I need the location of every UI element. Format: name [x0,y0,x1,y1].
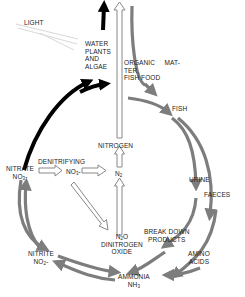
amino-acids-label: AMINO ACIDS [188,250,210,265]
water-plants-line: AND [85,55,111,63]
nitrite-formula: NO2- [28,258,54,266]
amino-acids-line: AMINO [188,250,210,258]
nitrate-label: NITRATE NO3- [6,165,34,180]
fish-label: FISH [172,105,187,113]
n2-label: N2 [115,170,122,178]
break-down-line: PRODUCTS [144,236,189,244]
faeces-label: FAECES [204,191,230,199]
water-plants-line: PLANTS [85,48,111,56]
break-down-label: BREAK DOWN PRODUCTS [144,228,189,243]
water-plants-line: ALGAE [85,63,111,71]
black-uptake-arrows [24,6,105,170]
urine-label: URINE [189,176,210,184]
ammonia-name: AMMONIA [118,273,150,281]
formula-base: NH [128,281,138,288]
n2o-name-line: OXIDE [101,248,143,256]
formula-base: NO [13,173,23,180]
formula-base: NO [66,168,76,175]
formula-base: NO [34,258,44,265]
nitrate-name: NITRATE [6,165,34,173]
formula-suffix: - [46,258,48,265]
formula-suffix: O [123,233,128,240]
n2o-label: N2O DINITROGEN OXIDE [101,233,143,256]
organic-matter-line: ORGANIC MAT- [124,59,180,67]
ammonia-formula: NH3 [118,281,150,289]
organic-matter-line: FISH FOOD [124,74,180,82]
organic-matter-label: ORGANIC MAT- TER, FISH FOOD [124,59,180,82]
water-plants-label: WATER PLANTS AND ALGAE [85,40,111,70]
nitrite-name: NITRITE [28,250,54,258]
nitrate-formula: NO3- [6,173,34,181]
denitrifying-label: DENITRIFYING [38,158,85,166]
formula-suffix: - [79,168,81,175]
nitrogen-label: NITROGEN [98,142,133,150]
organic-matter-line: TER, [124,67,180,75]
ammonia-label: AMMONIA NH3 [118,273,150,288]
formula-sub: 2 [120,173,123,178]
n2o-name-line: DINITROGEN [101,241,143,249]
water-plants-line: WATER [85,40,111,48]
break-down-line: BREAK DOWN [144,228,189,236]
nitrite-label: NITRITE NO2- [28,250,54,265]
n2o-formula: N2O [101,233,143,241]
amino-acids-line: ACIDS [188,258,210,266]
light-label: LIGHT [24,19,44,27]
formula-sub: 3 [137,284,140,289]
formula-suffix: - [25,173,27,180]
light-rays-icon [16,24,78,50]
denitrify-no3-label: NO3- [66,168,81,176]
